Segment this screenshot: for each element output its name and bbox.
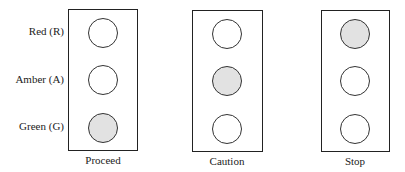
lamp-amber: [340, 66, 370, 96]
lamp-amber: [88, 65, 118, 95]
lamp-green: [88, 113, 118, 143]
lamp-amber: [212, 66, 242, 96]
row-label-amber: Amber (A): [15, 73, 64, 85]
caption-stop: Stop: [315, 155, 395, 167]
row-label-red: Red (R): [29, 25, 64, 37]
lamp-red: [340, 19, 370, 49]
row-label-green: Green (G): [19, 120, 64, 132]
caption-caution: Caution: [187, 155, 267, 167]
lamp-red: [212, 19, 242, 49]
signal-proceed: [68, 9, 138, 151]
signal-stop: [321, 10, 390, 152]
lamp-red: [88, 18, 118, 48]
signal-caution: [192, 10, 263, 152]
lamp-green: [340, 114, 370, 144]
lamp-green: [212, 114, 242, 144]
caption-proceed: Proceed: [63, 154, 143, 166]
